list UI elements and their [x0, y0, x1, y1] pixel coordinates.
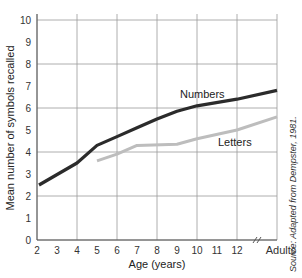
y-axis-ticks: 012345678910: [20, 15, 32, 246]
x-tick-label: 9: [174, 245, 180, 256]
x-tick-label: 5: [94, 245, 100, 256]
x-tick-label: 7: [134, 245, 140, 256]
source-note: Source: Adapted from Dempster, 1981.: [288, 116, 298, 272]
series-label-letters: Letters: [218, 136, 252, 148]
y-tick-label: 9: [25, 37, 31, 48]
x-tick-label: 3: [54, 245, 60, 256]
y-tick-label: 5: [25, 125, 31, 136]
x-tick-label: 11: [212, 245, 223, 256]
y-tick-label: 4: [25, 147, 31, 158]
grid: [37, 14, 277, 240]
y-tick-label: 2: [25, 191, 31, 202]
y-axis-label: Mean number of symbols recalled: [4, 45, 16, 210]
y-tick-label: 0: [25, 235, 31, 246]
y-tick-label: 3: [25, 169, 31, 180]
x-axis-ticks: 23456789101112Adults: [34, 244, 297, 256]
x-tick-label: 12: [231, 245, 243, 256]
x-axis-label: Age (years): [129, 258, 186, 270]
x-tick-label: 4: [74, 245, 80, 256]
x-tick-label: 6: [114, 245, 120, 256]
y-tick-label: 10: [20, 15, 32, 26]
series-label-numbers: Numbers: [180, 88, 225, 100]
y-tick-label: 1: [25, 213, 31, 224]
x-tick-label: 8: [154, 245, 160, 256]
y-tick-label: 7: [25, 81, 31, 92]
x-tick-label: 10: [191, 245, 203, 256]
line-chart: 012345678910 23456789101112Adults Mean n…: [0, 0, 302, 278]
x-tick-label: 2: [34, 245, 40, 256]
y-tick-label: 8: [25, 59, 31, 70]
y-tick-label: 6: [25, 103, 31, 114]
